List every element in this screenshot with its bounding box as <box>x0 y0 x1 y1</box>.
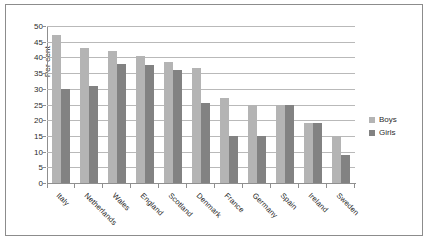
y-axis-tick-label: 45 <box>9 38 43 47</box>
x-axis-label-cell: Scotland <box>159 189 187 245</box>
y-axis-tick-label: 50 <box>9 22 43 31</box>
x-axis-label-sweden: Sweden <box>335 191 361 217</box>
x-axis-label-wales: Wales <box>111 191 132 212</box>
x-axis-label-cell: Denmark <box>187 189 215 245</box>
x-axis-label-cell: Germany <box>243 189 271 245</box>
x-axis-label-italy: Italy <box>55 191 72 208</box>
bar-group <box>131 26 159 183</box>
bar-girls-italy <box>61 89 70 183</box>
x-axis-label-cell: Italy <box>47 189 75 245</box>
bar-group <box>215 26 243 183</box>
y-axis-tick-mark <box>43 57 46 58</box>
x-axis-label-cell: Wales <box>103 189 131 245</box>
bar-boys-ireland <box>304 123 313 183</box>
y-axis-tick-label: 40 <box>9 53 43 62</box>
bar-girls-germany <box>257 136 266 183</box>
y-axis-tick-mark <box>43 42 46 43</box>
y-axis-tick-label: 15 <box>9 132 43 141</box>
x-axis-tick-cell <box>271 184 299 188</box>
y-axis-tick-mark <box>43 105 46 106</box>
x-axis-label-cell: Ireland <box>299 189 327 245</box>
bar-girls-france <box>229 136 238 183</box>
x-axis-tick-cell <box>131 184 159 188</box>
legend-item-girls[interactable]: Girls <box>369 126 424 139</box>
y-axis-tick-mark <box>43 73 46 74</box>
y-axis-tick-mark <box>43 167 46 168</box>
bar-boys-france <box>220 98 229 183</box>
legend-label: Girls <box>379 128 395 137</box>
x-axis-label-cell: Netherlands <box>75 189 103 245</box>
bar-group <box>47 26 75 183</box>
x-axis-label-cell: France <box>215 189 243 245</box>
y-axis-tick-label: 5 <box>9 163 43 172</box>
legend-label: Boys <box>379 115 397 124</box>
bar-girls-netherlands <box>89 86 98 183</box>
y-axis-tick-mark <box>43 89 46 90</box>
bar-group <box>159 26 187 183</box>
bar-boys-spain <box>276 105 285 184</box>
x-axis-tick-cell <box>47 184 75 188</box>
bar-girls-denmark <box>201 103 210 183</box>
bar-girls-spain <box>285 105 294 184</box>
legend-swatch-icon <box>369 130 375 136</box>
y-axis-tick-mark <box>43 136 46 137</box>
x-axis-tick-mark <box>354 184 355 188</box>
bar-group <box>243 26 271 183</box>
x-axis-tick-cell <box>103 184 131 188</box>
bar-groups <box>47 26 355 183</box>
bar-boys-italy <box>52 35 61 183</box>
x-axis-ticks <box>47 184 355 188</box>
bar-girls-ireland <box>313 123 322 183</box>
y-axis-tick-labels: 50454035302520151050 <box>6 26 43 183</box>
x-axis-tick-cell <box>327 184 355 188</box>
y-axis-tick-label: 10 <box>9 148 43 157</box>
bar-girls-wales <box>117 64 126 183</box>
x-axis-label-cell: Sweden <box>327 189 355 245</box>
legend-item-boys[interactable]: Boys <box>369 113 424 126</box>
legend-swatch-icon <box>369 117 375 123</box>
bar-group <box>327 26 355 183</box>
x-axis-tick-cell <box>215 184 243 188</box>
x-axis-tick-labels: ItalyNetherlandsWalesEnglandScotlandDenm… <box>47 189 355 245</box>
bar-group <box>271 26 299 183</box>
x-axis-label-cell: Spain <box>271 189 299 245</box>
y-axis-tick-label: 25 <box>9 101 43 110</box>
bar-boys-netherlands <box>80 48 89 183</box>
legend: BoysGirls <box>369 113 424 139</box>
y-axis-tick-label: 30 <box>9 85 43 94</box>
y-axis-tick-mark <box>43 152 46 153</box>
bar-boys-wales <box>108 51 117 183</box>
bar-girls-england <box>145 65 154 183</box>
bar-group <box>103 26 131 183</box>
bar-girls-scotland <box>173 70 182 183</box>
y-axis-tick-mark <box>43 183 46 184</box>
x-axis-label-cell: England <box>131 189 159 245</box>
y-axis-tick-label: 35 <box>9 69 43 78</box>
plot-area <box>47 26 355 183</box>
x-axis-tick-cell <box>75 184 103 188</box>
y-axis-tick-label: 0 <box>9 179 43 188</box>
x-axis-tick-cell <box>299 184 327 188</box>
y-axis-tick-mark <box>43 26 46 27</box>
bar-girls-sweden <box>341 155 350 183</box>
bar-group <box>187 26 215 183</box>
bar-boys-denmark <box>192 68 201 183</box>
y-axis-tick-mark <box>43 120 46 121</box>
x-axis-tick-cell <box>159 184 187 188</box>
x-axis-tick-cell <box>243 184 271 188</box>
x-axis-label-spain: Spain <box>279 191 299 211</box>
y-axis-tick-label: 20 <box>9 116 43 125</box>
bar-group <box>75 26 103 183</box>
x-axis-tick-cell <box>187 184 215 188</box>
bar-boys-germany <box>248 105 257 184</box>
bar-boys-england <box>136 56 145 183</box>
bar-group <box>299 26 327 183</box>
chart-frame: Per cent 50454035302520151050 ItalyNethe… <box>5 4 423 236</box>
bar-boys-sweden <box>332 136 341 183</box>
bar-boys-scotland <box>164 62 173 183</box>
